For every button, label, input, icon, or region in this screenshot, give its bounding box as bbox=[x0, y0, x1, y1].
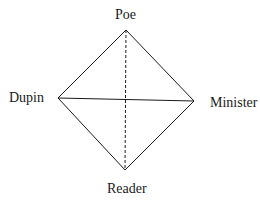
edge-poe-reader-dashed bbox=[125, 30, 126, 170]
edge-minister-reader bbox=[125, 101, 194, 170]
node-label-dupin: Dupin bbox=[9, 91, 44, 105]
edge-dupin-minister bbox=[58, 98, 194, 101]
edge-poe-dupin bbox=[58, 30, 126, 98]
edge-poe-minister bbox=[126, 30, 194, 101]
edge-dupin-reader bbox=[58, 98, 125, 170]
node-label-poe: Poe bbox=[115, 8, 136, 22]
node-label-reader: Reader bbox=[107, 182, 147, 196]
node-label-minister: Minister bbox=[210, 96, 257, 110]
